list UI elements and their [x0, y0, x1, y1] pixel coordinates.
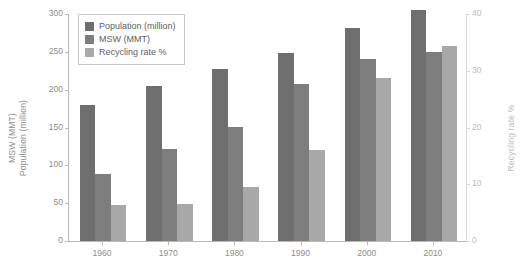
- bar: [294, 84, 310, 241]
- x-axis-tick: 2010: [433, 241, 434, 245]
- x-axis-tick-label: 1970: [146, 248, 190, 258]
- bar: [345, 28, 361, 241]
- y-axis-left-tick-label: 200: [49, 84, 63, 94]
- legend-item-label: Population (million): [99, 20, 176, 33]
- y-axis-right-tick: 0: [466, 241, 470, 242]
- x-axis-tick: 1980: [234, 241, 235, 245]
- y-axis-right-tick: 20: [466, 128, 470, 129]
- bar: [309, 150, 325, 241]
- y-axis-right-tick-label: 20: [472, 122, 481, 132]
- bar: [95, 174, 111, 241]
- y-axis-left-tick-label: 300: [49, 8, 63, 18]
- legend-swatch-icon: [85, 48, 94, 57]
- bar: [146, 86, 162, 241]
- legend-swatch-icon: [85, 22, 94, 31]
- y-axis-right-title-text: Recycling rate %: [506, 105, 516, 172]
- y-axis-right-tick-label: 40: [472, 8, 481, 18]
- y-axis-right-tick-label: 30: [472, 65, 481, 75]
- y-axis-left-title-line2: Population (million): [18, 100, 28, 176]
- bar: [426, 52, 442, 241]
- y-axis-left-tick-label: 0: [58, 235, 63, 245]
- bar: [442, 46, 458, 241]
- x-axis-tick: 1970: [168, 241, 169, 245]
- bar-group: [212, 14, 259, 241]
- legend-item: MSW (MMT): [85, 33, 176, 46]
- y-axis-left-title-line1: MSW (MMT): [7, 113, 17, 163]
- x-axis-tick-label: 2000: [345, 248, 389, 258]
- y-axis-left-tick-label: 150: [49, 122, 63, 132]
- bar: [177, 204, 193, 241]
- x-axis-tick-label: 1960: [80, 248, 124, 258]
- chart-figure: MSW (MMT) Population (million) Recycling…: [0, 0, 524, 276]
- bar: [80, 105, 96, 241]
- x-axis: 196019701980199020002010: [68, 241, 466, 242]
- bar: [162, 149, 178, 241]
- bar-group: [278, 14, 325, 241]
- x-axis-tick: 2000: [367, 241, 368, 245]
- y-axis-right-tick-label: 0: [472, 235, 477, 245]
- y-axis-right: 010203040: [466, 14, 467, 241]
- y-axis-right-tick-label: 10: [472, 178, 481, 188]
- x-axis-tick-label: 2010: [411, 248, 455, 258]
- y-axis-right-tick: 10: [466, 184, 470, 185]
- x-axis-tick-label: 1990: [279, 248, 323, 258]
- legend-item: Recycling rate %: [85, 46, 176, 59]
- legend-swatch-icon: [85, 35, 94, 44]
- legend-item: Population (million): [85, 20, 176, 33]
- y-axis-right-tick: 30: [466, 71, 470, 72]
- y-axis-left-tick-label: 50: [54, 197, 63, 207]
- bar: [111, 205, 127, 241]
- bar: [212, 69, 228, 241]
- bar-group: [345, 14, 392, 241]
- x-axis-tick-label: 1980: [212, 248, 256, 258]
- bar: [278, 53, 294, 241]
- y-axis-right-tick: 40: [466, 14, 470, 15]
- y-axis-right-title: Recycling rate %: [500, 0, 522, 276]
- bar: [243, 187, 259, 241]
- legend-item-label: MSW (MMT): [99, 33, 150, 46]
- bar: [360, 59, 376, 241]
- bar: [376, 78, 392, 241]
- x-axis-tick: 1990: [301, 241, 302, 245]
- y-axis-left-title: MSW (MMT) Population (million): [6, 0, 30, 276]
- x-axis-tick: 1960: [102, 241, 103, 245]
- bar: [228, 127, 244, 241]
- y-axis-left-tick-label: 250: [49, 46, 63, 56]
- chart-legend: Population (million)MSW (MMT)Recycling r…: [78, 14, 185, 65]
- bar-group: [411, 14, 458, 241]
- y-axis-left-tick-label: 100: [49, 159, 63, 169]
- bar: [411, 10, 427, 241]
- legend-item-label: Recycling rate %: [99, 46, 167, 59]
